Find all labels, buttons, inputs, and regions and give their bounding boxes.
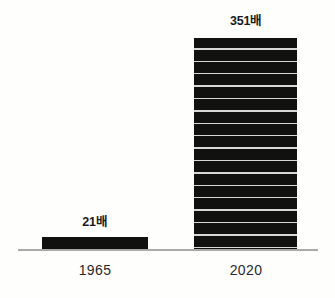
bar-value-label-1965: 21배 (55, 211, 135, 230)
x-axis-baseline (18, 249, 318, 251)
x-axis-label-2020: 2020 (206, 262, 286, 278)
bar-chart-figure: 21배 351배 1965 2020 (0, 0, 335, 298)
bar-value-label-2020: 351배 (206, 10, 286, 29)
plot-area: 21배 351배 1965 2020 (0, 0, 335, 298)
x-axis-label-1965: 1965 (55, 262, 135, 278)
bar-2020 (194, 38, 297, 250)
